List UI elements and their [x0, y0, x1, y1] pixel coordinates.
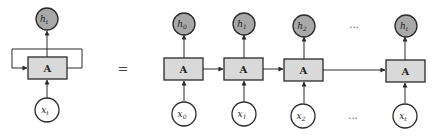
step-t: ht A xt — [386, 15, 425, 128]
cell-label: A — [299, 65, 308, 76]
step-2: h2 A x2 — [284, 15, 323, 128]
folded-rnn: ht A xt — [12, 8, 82, 122]
unrolled-rnn: h0 A x0 h1 A x1 h2 A x2 — [164, 13, 425, 128]
step-0: h0 A x0 — [164, 13, 203, 126]
cell-label: A — [43, 63, 52, 74]
step-1: h1 A x1 — [224, 13, 263, 126]
ellipsis-bottom: ... — [348, 110, 358, 121]
rnn-diagram: ht A xt = h0 A x0 h1 A — [0, 0, 435, 137]
cell-label: A — [401, 66, 410, 77]
cell-label: A — [239, 64, 248, 75]
cell-label: A — [179, 64, 188, 75]
ellipsis-top: ... — [349, 19, 359, 30]
equals-sign: = — [118, 61, 129, 76]
